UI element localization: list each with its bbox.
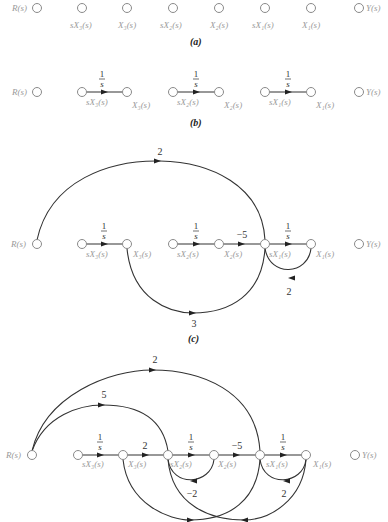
node-X3 bbox=[123, 88, 132, 97]
label-R: R(s) bbox=[5, 450, 21, 460]
node-X2 bbox=[215, 4, 224, 13]
node-R bbox=[28, 451, 37, 460]
arrow-icon bbox=[233, 453, 240, 458]
gain-num: 1 bbox=[100, 69, 105, 79]
node-sX2 bbox=[169, 240, 178, 249]
arrow-icon bbox=[142, 453, 149, 458]
panel-c: 2 R(s) 1 s 1 s −5 1 s 2 3 bbox=[10, 146, 381, 345]
label-Y: Y(s) bbox=[366, 239, 381, 249]
node-sX3 bbox=[78, 4, 87, 13]
label-sX1: sX₁(s) bbox=[266, 459, 288, 469]
label-X2: X₂(s) bbox=[223, 249, 242, 259]
label-sX1: sX₁(s) bbox=[252, 20, 274, 30]
node-Y bbox=[351, 451, 360, 460]
edge-r-to-sx1 bbox=[32, 370, 260, 451]
label-R: R(s) bbox=[10, 239, 26, 249]
arrow-icon bbox=[285, 242, 292, 247]
label-X2: X₂(s) bbox=[217, 459, 236, 469]
gain-r-to-sx1: 2 bbox=[158, 146, 163, 157]
node-sX2 bbox=[169, 4, 178, 13]
gain-den: s bbox=[100, 79, 104, 89]
label-Y: Y(s) bbox=[362, 450, 377, 460]
label-X1: X₁(s) bbox=[315, 249, 334, 259]
gain-r-to-sx2: 5 bbox=[102, 389, 107, 400]
node-X2 bbox=[215, 240, 224, 249]
node-R bbox=[33, 4, 42, 13]
node-Y bbox=[355, 4, 364, 13]
arrow-icon bbox=[280, 453, 287, 458]
gain-den: s bbox=[281, 442, 285, 452]
node-X1 bbox=[302, 451, 311, 460]
node-Y bbox=[355, 240, 364, 249]
gain-num: 1 bbox=[286, 221, 291, 231]
panel-d: 2 5 R(s) 1 s 2 1 s −5 1 s −2 bbox=[5, 354, 377, 522]
edge-r-to-sx1 bbox=[37, 161, 265, 240]
label-sX3: sX₃(s) bbox=[82, 459, 104, 469]
label-sX1: sX₁(s) bbox=[269, 249, 291, 259]
arrow-icon bbox=[193, 90, 200, 95]
node-Y bbox=[355, 88, 364, 97]
label-sX2: sX₂(s) bbox=[160, 20, 182, 30]
node-sX3 bbox=[78, 88, 87, 97]
node-sX3 bbox=[78, 240, 87, 249]
caption-a: (a) bbox=[190, 36, 202, 48]
label-sX2: sX₂(s) bbox=[177, 249, 199, 259]
label-X1: X₁(s) bbox=[315, 100, 334, 110]
gain-x2-to-sx1: −5 bbox=[232, 440, 243, 451]
label-X1: X₁(s) bbox=[312, 459, 331, 469]
panel-a: R(s) Y(s) sX₃(s) X₃(s) sX₂(s) X₂(s) sX₁(… bbox=[11, 3, 381, 48]
label-sX3: sX₃(s) bbox=[86, 249, 108, 259]
node-X1 bbox=[307, 88, 316, 97]
label-X2: X₂(s) bbox=[223, 100, 242, 110]
arrow-icon bbox=[101, 90, 108, 95]
arrow-icon bbox=[98, 403, 105, 408]
arrow-icon bbox=[193, 242, 200, 247]
arrow-icon bbox=[189, 311, 196, 316]
label-sX2: sX₂(s) bbox=[177, 97, 199, 107]
caption-c: (c) bbox=[188, 333, 199, 345]
label-X1: X₁(s) bbox=[301, 20, 320, 30]
label-Y: Y(s) bbox=[366, 3, 381, 13]
node-sX1 bbox=[256, 451, 265, 460]
arrow-icon bbox=[154, 159, 161, 164]
node-sX1 bbox=[261, 88, 270, 97]
label-Y: Y(s) bbox=[366, 87, 381, 97]
gain-x2-to-sx2: −2 bbox=[187, 488, 198, 499]
gain-x2-to-sx1: −5 bbox=[237, 229, 248, 240]
gain-num: 1 bbox=[286, 69, 291, 79]
gain-den: s bbox=[189, 442, 193, 452]
label-X3: X₃(s) bbox=[117, 20, 136, 30]
node-X1 bbox=[307, 240, 316, 249]
node-X3 bbox=[119, 451, 128, 460]
node-R bbox=[33, 88, 42, 97]
gain-num: 1 bbox=[194, 69, 199, 79]
gain-den: s bbox=[286, 231, 290, 241]
gain-den: s bbox=[194, 79, 198, 89]
arrow-icon bbox=[97, 453, 104, 458]
caption-b: (b) bbox=[190, 117, 202, 129]
gain-x3-to-sx1: 3 bbox=[192, 318, 197, 329]
node-X2 bbox=[215, 88, 224, 97]
node-X3 bbox=[123, 4, 132, 13]
arrow-icon bbox=[288, 276, 295, 281]
gain-num: 1 bbox=[281, 432, 286, 442]
gain-num: 1 bbox=[102, 221, 107, 231]
node-X1 bbox=[307, 4, 316, 13]
label-X2: X₂(s) bbox=[209, 20, 228, 30]
gain-r-to-sx1: 2 bbox=[153, 354, 158, 365]
gain-num: 1 bbox=[194, 221, 199, 231]
label-sX3: sX₃(s) bbox=[70, 20, 92, 30]
arrow-icon bbox=[188, 453, 195, 458]
label-X3: X₃(s) bbox=[132, 249, 151, 259]
node-X3 bbox=[123, 240, 132, 249]
gain-num: 1 bbox=[189, 432, 194, 442]
label-sX3: sX₃(s) bbox=[86, 97, 108, 107]
node-sX1 bbox=[261, 240, 270, 249]
panel-b: R(s) 1 s 1 s 1 s Y(s) sX₃(s) X₃(s) sX₂(s… bbox=[11, 69, 381, 129]
gain-num: 1 bbox=[98, 432, 103, 442]
label-R: R(s) bbox=[11, 3, 27, 13]
gain-x1-to-sx1: 2 bbox=[282, 488, 287, 499]
label-X3: X₃(s) bbox=[127, 459, 146, 469]
arrow-icon bbox=[285, 90, 292, 95]
arrow-icon bbox=[238, 242, 245, 247]
